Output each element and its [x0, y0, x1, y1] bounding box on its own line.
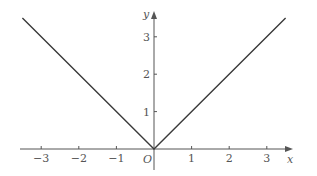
x-tick-label: 2	[226, 152, 233, 165]
y-tick-label: 2	[143, 68, 150, 81]
x-tick-label: −2	[71, 152, 87, 165]
x-axis-label: x	[287, 153, 294, 166]
abs-value-graph: −3−2−1123123xyO	[0, 0, 317, 176]
labels: −3−2−1123123xyO	[33, 8, 294, 166]
y-axis-label: y	[142, 8, 150, 21]
x-tick-label: 1	[188, 152, 195, 165]
x-tick-label: −1	[108, 152, 124, 165]
y-axis-arrow-icon	[151, 11, 157, 19]
origin-label: O	[143, 153, 152, 166]
x-tick-label: 3	[263, 152, 270, 165]
y-tick-label: 3	[143, 31, 150, 44]
x-axis-arrow-icon	[285, 146, 293, 152]
y-tick-label: 1	[143, 106, 150, 119]
x-tick-label: −3	[33, 152, 49, 165]
